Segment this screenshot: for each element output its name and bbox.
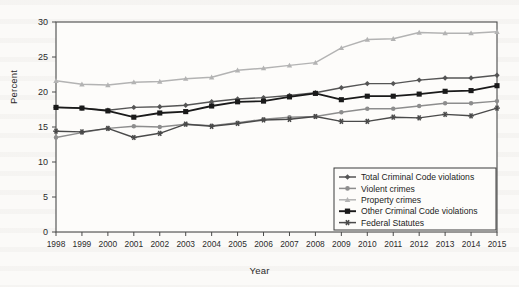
y-axis-tick-label: 30 — [38, 17, 48, 27]
x-axis-title: Year — [0, 265, 519, 276]
x-axis-tick-label: 2012 — [410, 239, 429, 249]
data-point-square — [209, 103, 214, 108]
data-point-circle — [132, 124, 136, 128]
x-axis-tick-label: 1999 — [73, 239, 92, 249]
data-point-square — [494, 83, 499, 88]
chart-plot-area: 0510152025301998199920002001200220032004… — [0, 0, 519, 287]
x-axis-tick-label: 2006 — [254, 239, 273, 249]
x-axis-tick-label: 2011 — [384, 239, 402, 249]
legend-item-label: Other Criminal Code violations — [361, 206, 478, 216]
data-point-circle — [391, 107, 395, 111]
data-point-circle — [158, 125, 162, 129]
y-axis-title: Percent — [8, 70, 19, 104]
x-axis-tick-label: 2005 — [228, 239, 247, 249]
x-axis-tick-label: 2015 — [488, 239, 507, 249]
y-axis-tick-label: 15 — [38, 122, 48, 132]
x-axis-tick-label: 2000 — [99, 239, 118, 249]
x-axis-tick-label: 1998 — [47, 239, 66, 249]
legend-item-label: Violent crimes — [361, 184, 415, 194]
data-point-square — [345, 209, 350, 214]
data-point-square — [391, 94, 396, 99]
data-point-square — [469, 88, 474, 93]
legend-item-label: Property crimes — [361, 195, 421, 205]
data-point-square — [287, 94, 292, 99]
legend-item-label: Federal Statutes — [361, 218, 424, 228]
data-point-square — [339, 97, 344, 102]
x-axis-tick-label: 2004 — [202, 239, 221, 249]
data-point-square — [443, 89, 448, 94]
data-point-square — [131, 115, 136, 120]
legend-item-label: Total Criminal Code violations — [361, 172, 474, 182]
data-point-circle — [54, 135, 58, 139]
data-point-square — [365, 94, 370, 99]
data-point-square — [313, 91, 318, 96]
y-axis-tick-label: 25 — [38, 52, 48, 62]
data-point-circle — [345, 186, 350, 191]
data-point-square — [79, 106, 84, 111]
y-axis-tick-label: 10 — [38, 157, 48, 167]
y-axis-tick-label: 20 — [38, 87, 48, 97]
x-axis-tick-label: 2002 — [150, 239, 169, 249]
data-point-circle — [339, 110, 343, 114]
x-axis-tick-label: 2001 — [125, 239, 144, 249]
x-axis-tick-label: 2003 — [176, 239, 195, 249]
data-point-circle — [365, 107, 369, 111]
chart-legend: Total Criminal Code violationsViolent cr… — [334, 168, 496, 230]
data-point-square — [105, 108, 110, 113]
data-point-square — [53, 105, 58, 110]
data-point-square — [183, 109, 188, 114]
y-axis-tick-label: 5 — [43, 192, 48, 202]
data-point-square — [417, 92, 422, 97]
data-point-circle — [495, 99, 499, 103]
data-point-square — [235, 99, 240, 104]
x-axis-tick-label: 2007 — [280, 239, 299, 249]
y-axis-tick-label: 0 — [43, 227, 48, 237]
data-point-circle — [417, 104, 421, 108]
data-point-square — [261, 99, 266, 104]
data-point-circle — [443, 101, 447, 105]
data-point-circle — [469, 101, 473, 105]
x-axis-tick-label: 2010 — [358, 239, 377, 249]
x-axis-tick-label: 2014 — [462, 239, 481, 249]
data-point-square — [157, 110, 162, 115]
x-axis-tick-label: 2009 — [332, 239, 351, 249]
x-axis-tick-label: 2008 — [306, 239, 325, 249]
x-axis-tick-label: 2013 — [436, 239, 455, 249]
line-chart-figure: 0510152025301998199920002001200220032004… — [0, 0, 519, 287]
